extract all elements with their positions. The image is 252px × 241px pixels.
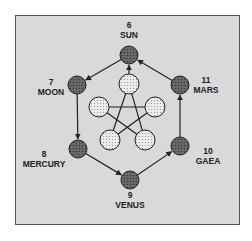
label-venus: 9 VENUS [115, 191, 144, 210]
node-mars [171, 76, 189, 94]
node-mercury [69, 140, 87, 158]
node-moon [68, 76, 86, 94]
label-sun: 6 SUN [120, 21, 138, 40]
arrow-moon-to-mercury [77, 94, 78, 139]
gaea-name: GAEA [196, 157, 221, 167]
inner-circle-inner-bottom-right [135, 130, 155, 150]
inner-circle-inner-top [119, 74, 139, 94]
arrow-mars-to-sun [138, 60, 173, 80]
arrow-venus-to-gaea [137, 152, 171, 175]
arrow-sun-to-moon [86, 59, 122, 80]
node-sun [120, 46, 138, 64]
inner-circle-inner-bottom-left [100, 130, 120, 150]
node-venus [121, 171, 139, 189]
arrow-mercury-to-venus [86, 154, 122, 175]
pentagram-layer [89, 74, 165, 150]
node-gaea [171, 137, 189, 155]
mars-name: MARS [193, 86, 218, 96]
label-mercury: 8 MERCURY [23, 150, 66, 169]
venus-name: VENUS [115, 201, 144, 211]
inner-circle-inner-left [89, 97, 109, 117]
label-gaea: 10 GAEA [196, 147, 221, 166]
label-moon: 7 MOON [38, 78, 64, 97]
sun-name: SUN [120, 31, 138, 41]
inner-circle-inner-right [145, 97, 165, 117]
moon-name: MOON [38, 88, 64, 98]
mercury-name: MERCURY [23, 160, 66, 170]
label-mars: 11 MARS [193, 76, 218, 95]
pentagram-edge [132, 94, 143, 131]
